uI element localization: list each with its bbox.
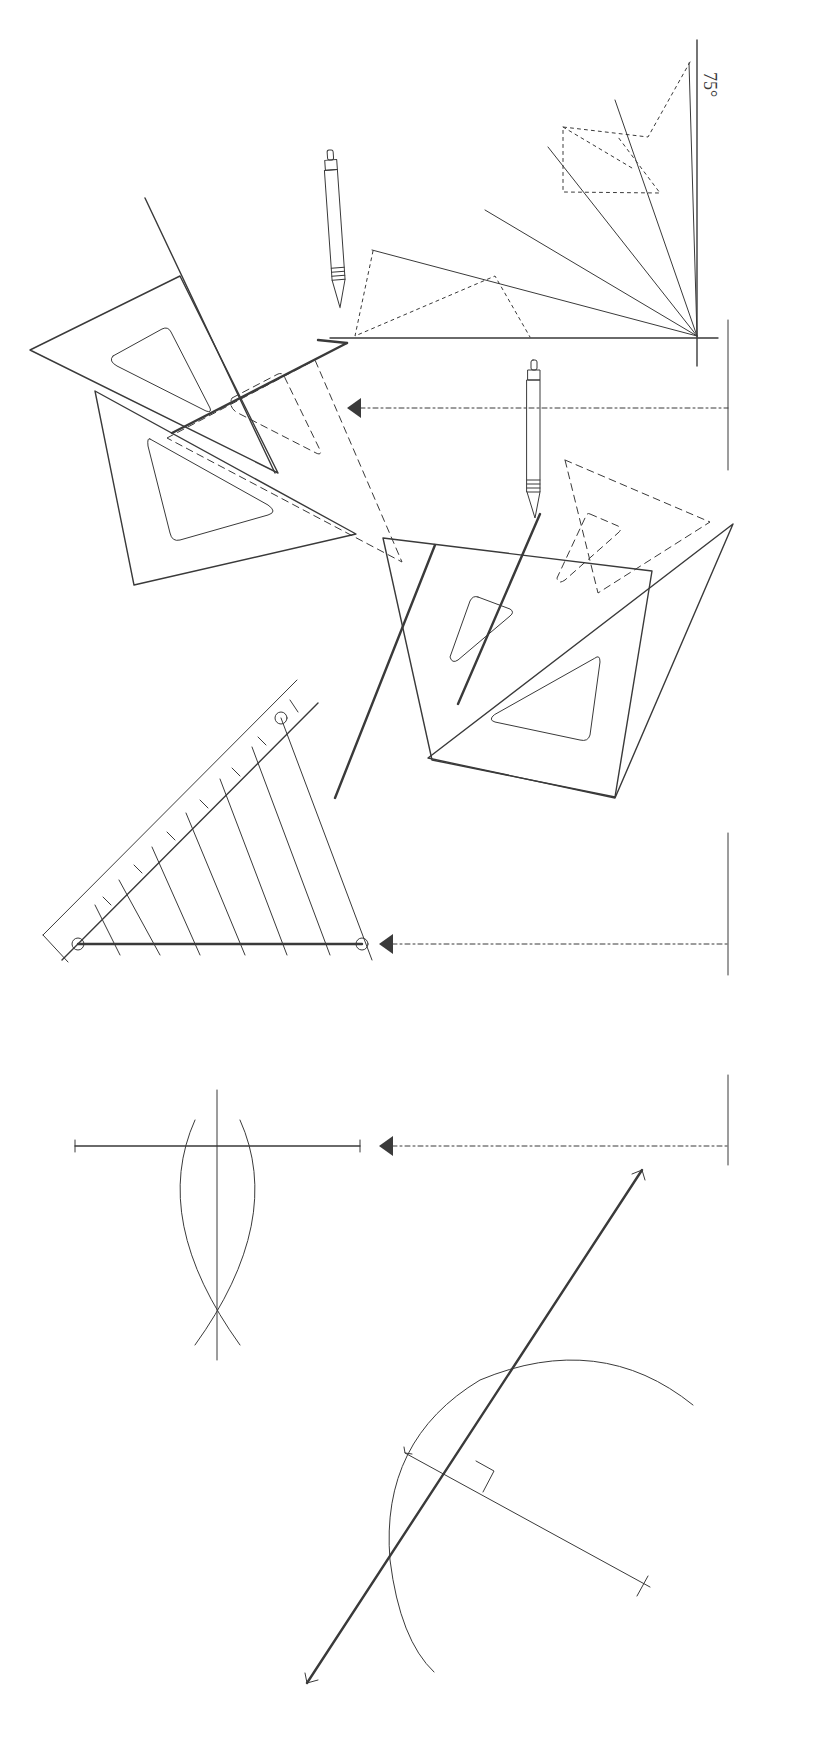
parallel-line <box>252 747 330 955</box>
parallel-line <box>186 813 245 955</box>
dotted-triangle-15 <box>355 251 530 337</box>
pencil-icon <box>323 150 347 309</box>
pencil-stroke <box>318 340 347 343</box>
angle-ray-15 <box>372 250 697 336</box>
ruler-edge <box>43 680 297 935</box>
angle-ray-45 <box>548 147 697 336</box>
set-square-d-cutout <box>491 657 600 741</box>
division-ticks <box>103 700 298 905</box>
lower-set-squares <box>335 360 733 798</box>
arrow-head-icon <box>379 934 393 954</box>
pencil-icon <box>527 360 540 518</box>
angle-label: 75° <box>700 72 720 97</box>
set-square-dashed-2-cutout <box>557 514 621 583</box>
tangent-line <box>307 1170 642 1683</box>
set-square-dashed-cutout <box>231 374 321 455</box>
tangent-construction <box>305 1170 693 1683</box>
angle-ray-60 <box>615 100 697 336</box>
set-square-dashed <box>167 360 402 562</box>
parallel-line <box>152 847 200 955</box>
measure-line <box>62 703 318 960</box>
parallel-line <box>220 779 287 955</box>
bisector-construction <box>75 1090 360 1360</box>
arc-left <box>180 1120 240 1345</box>
angle-construction: 75° <box>330 40 720 366</box>
set-square-a <box>30 276 278 473</box>
divided-line-construction <box>43 680 372 962</box>
parallel-line <box>281 718 372 960</box>
circle-arc <box>389 1360 693 1672</box>
radius-line <box>405 1453 650 1587</box>
right-angle-marker <box>476 1461 494 1492</box>
set-square-d <box>428 524 733 798</box>
arc-right <box>195 1120 255 1345</box>
set-square-b <box>95 391 356 585</box>
parallel-line <box>95 905 120 955</box>
angle-ray-75 <box>689 63 697 336</box>
dotted-triangle-75 <box>563 62 690 193</box>
set-square-a-cutout <box>111 328 210 412</box>
drawn-edge-line <box>335 545 435 798</box>
transition-arrows <box>347 320 728 1165</box>
arrow-head-icon <box>347 398 361 418</box>
angle-ray-30 <box>485 210 697 336</box>
pencil-drawn-line <box>458 514 540 704</box>
drawn-line <box>172 343 347 433</box>
set-square-dashed-2 <box>565 460 710 593</box>
upper-set-squares <box>30 150 402 585</box>
technical-drawing: 75° <box>0 0 826 1750</box>
dotted-triangle-edge <box>563 127 632 168</box>
center-tick <box>637 1576 648 1596</box>
arrow-head-icon <box>379 1136 393 1156</box>
